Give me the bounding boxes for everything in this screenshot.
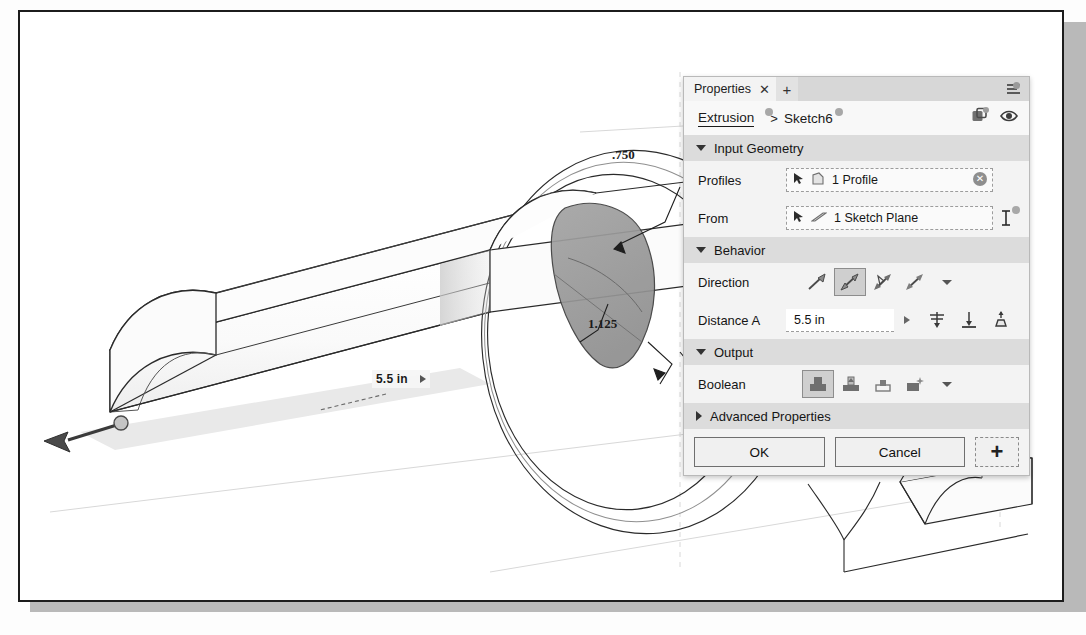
boolean-option-intersect[interactable] bbox=[868, 371, 898, 397]
row-boolean: Boolean bbox=[684, 365, 1029, 403]
distance-a-input[interactable]: 5.5 in bbox=[786, 309, 894, 332]
dimension-length[interactable]: 5.5 in bbox=[372, 370, 430, 388]
dimension-length-caret-icon[interactable] bbox=[420, 375, 426, 383]
dimension-length-value: 5.5 in bbox=[376, 372, 408, 386]
direction-option-one-side[interactable] bbox=[802, 269, 832, 295]
direction-option-two-sides-asymmetric[interactable] bbox=[834, 268, 866, 296]
to-object-icon[interactable] bbox=[954, 307, 984, 333]
midplane-icon[interactable] bbox=[922, 307, 952, 333]
boolean-label: Boolean bbox=[698, 377, 786, 392]
page-root: 5.5 in 1.125 .750 Properties ✕ + Ext bbox=[0, 0, 1086, 635]
ok-button[interactable]: OK bbox=[694, 437, 825, 467]
cursor-arrow-icon bbox=[793, 172, 804, 188]
clear-profiles-icon[interactable]: ✕ bbox=[973, 172, 987, 186]
section-title-input-geometry: Input Geometry bbox=[714, 141, 804, 156]
breadcrumb-current[interactable]: Sketch6 bbox=[784, 111, 833, 126]
boolean-option-cut[interactable] bbox=[836, 371, 866, 397]
menu-badge-dot-icon bbox=[1013, 82, 1020, 89]
row-distance-a: Distance A 5.5 in bbox=[684, 301, 1029, 339]
section-header-input-geometry[interactable]: Input Geometry bbox=[684, 135, 1029, 161]
from-select-field[interactable]: 1 Sketch Plane bbox=[786, 206, 993, 230]
close-icon[interactable]: ✕ bbox=[759, 82, 770, 97]
sketch-plane-icon bbox=[811, 211, 827, 226]
properties-panel[interactable]: Properties ✕ + Extrusion > Sketch6 bbox=[683, 76, 1030, 476]
direction-option-two-directions[interactable] bbox=[900, 269, 930, 295]
from-value: 1 Sketch Plane bbox=[834, 211, 918, 225]
dimension-thickness[interactable]: .750 bbox=[612, 147, 635, 163]
section-header-behavior[interactable]: Behavior bbox=[684, 237, 1029, 263]
profiles-select-field[interactable]: 1 Profile ✕ bbox=[786, 168, 993, 192]
hamburger-menu-icon[interactable] bbox=[1007, 81, 1023, 97]
panel-tabbar: Properties ✕ + bbox=[684, 77, 1029, 101]
boolean-dropdown-icon[interactable] bbox=[942, 382, 952, 387]
tab-properties[interactable]: Properties ✕ bbox=[684, 77, 776, 101]
chevron-down-icon bbox=[696, 247, 706, 253]
from-badge-dot-icon bbox=[1012, 206, 1020, 214]
dimension-width[interactable]: 1.125 bbox=[588, 316, 617, 332]
eye-icon[interactable] bbox=[999, 107, 1019, 125]
boolean-option-join[interactable] bbox=[802, 370, 834, 398]
direction-option-symmetric[interactable] bbox=[868, 269, 898, 295]
cancel-button[interactable]: Cancel bbox=[835, 437, 966, 467]
breadcrumb: Extrusion > Sketch6 bbox=[684, 101, 1029, 135]
row-profiles: Profiles 1 Profile ✕ bbox=[684, 161, 1029, 199]
tab-properties-label: Properties bbox=[694, 82, 751, 96]
row-direction: Direction bbox=[684, 263, 1029, 301]
profile-shape-icon bbox=[811, 172, 825, 189]
profiles-label: Profiles bbox=[698, 173, 786, 188]
breadcrumb-icons bbox=[971, 107, 1019, 125]
from-label: From bbox=[698, 211, 786, 226]
cursor-arrow-icon bbox=[793, 210, 804, 226]
section-header-output[interactable]: Output bbox=[684, 339, 1029, 365]
distance-a-caret-icon[interactable] bbox=[904, 316, 910, 324]
screenshot-frame: 5.5 in 1.125 .750 Properties ✕ + Ext bbox=[18, 10, 1064, 602]
panel-footer: OK Cancel + bbox=[684, 429, 1029, 475]
section-title-advanced-properties: Advanced Properties bbox=[710, 409, 831, 424]
taper-icon[interactable] bbox=[986, 307, 1016, 333]
direction-dropdown-icon[interactable] bbox=[942, 280, 952, 285]
row-from: From 1 Sketch Plane bbox=[684, 199, 1029, 237]
chevron-down-icon bbox=[696, 349, 706, 355]
direction-label: Direction bbox=[698, 275, 786, 290]
body-visibility-icon[interactable] bbox=[971, 107, 989, 125]
breadcrumb-parent[interactable]: Extrusion bbox=[698, 110, 754, 127]
chevron-right-icon bbox=[696, 411, 702, 421]
distance-a-label: Distance A bbox=[698, 313, 786, 328]
profiles-value: 1 Profile bbox=[832, 173, 878, 187]
section-title-output: Output bbox=[714, 345, 753, 360]
breadcrumb-current-dot-icon bbox=[835, 108, 843, 116]
apply-add-button[interactable]: + bbox=[975, 437, 1019, 467]
boolean-option-new-body[interactable] bbox=[900, 371, 930, 397]
section-title-behavior: Behavior bbox=[714, 243, 765, 258]
add-tab-icon[interactable]: + bbox=[776, 77, 798, 101]
chevron-down-icon bbox=[696, 145, 706, 151]
section-header-advanced-properties[interactable]: Advanced Properties bbox=[684, 403, 1029, 429]
from-extent-icon[interactable] bbox=[993, 208, 1019, 228]
